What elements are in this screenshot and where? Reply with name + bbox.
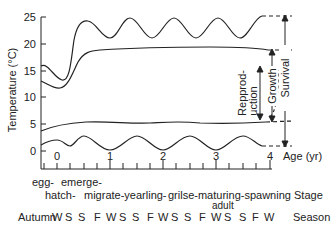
- y-tick-15: 15: [24, 65, 36, 77]
- lower-growth-curve: [41, 122, 266, 131]
- y-tick-10: 10: [24, 91, 36, 103]
- stage-migrate-yearling: migrate-yearling-: [84, 189, 167, 201]
- survival-arrow-up-icon: [282, 15, 288, 21]
- curves: [41, 16, 292, 150]
- reproduction-arrow-up-icon: [257, 66, 263, 72]
- season-letter: S: [119, 211, 126, 223]
- season-letter: S: [239, 211, 246, 223]
- season-letter: F: [252, 211, 259, 223]
- x-tick-4: 4: [267, 150, 273, 162]
- season-letter: S: [184, 211, 191, 223]
- y-tick-25: 25: [24, 11, 36, 23]
- season-letter: W: [211, 211, 221, 223]
- growth-label: Growth: [266, 68, 278, 103]
- season-letter: S: [78, 211, 85, 223]
- temperature-requirements-figure: 25 20 15 10 5 0 Temperature (°C): [0, 0, 334, 225]
- x-axis-label: Age (yr): [283, 150, 322, 162]
- season-letter: S: [171, 211, 178, 223]
- stage-emerge: emerge-: [61, 176, 102, 188]
- x-tick-2: 2: [160, 150, 166, 162]
- x-tick-0: 0: [54, 150, 60, 162]
- season-letter: F: [147, 211, 154, 223]
- x-tick-labels: 0 1 2 3 4: [54, 150, 273, 162]
- season-letter: S: [132, 211, 139, 223]
- stage-egg: egg-: [32, 176, 54, 188]
- upper-growth-curve: [41, 47, 268, 88]
- x-tick-3: 3: [213, 150, 219, 162]
- season-letter: S: [224, 211, 231, 223]
- season-letter: W: [106, 211, 116, 223]
- reproduction-label-line2: uction: [247, 86, 259, 115]
- y-axis-label: Temperature (°C): [6, 48, 18, 132]
- season-letter: W: [158, 211, 168, 223]
- y-tick-labels: 25 20 15 10 5 0: [24, 11, 36, 157]
- season-letter: S: [65, 211, 72, 223]
- survival-arrow-down-icon: [282, 141, 288, 147]
- survival-label: Survival: [279, 58, 291, 97]
- stage-row-label: Stage: [294, 189, 323, 201]
- season-autumn: Autumn: [18, 211, 56, 223]
- season-letter: F: [199, 211, 206, 223]
- season-letter: F: [94, 211, 101, 223]
- y-tick-5: 5: [30, 118, 36, 130]
- x-tick-1: 1: [107, 150, 113, 162]
- lower-survival-curve: [41, 136, 262, 150]
- stage-hatch: hatch-: [45, 189, 76, 201]
- y-tick-0: 0: [30, 145, 36, 157]
- x-ticks: [44, 160, 270, 169]
- season-letter: W: [52, 211, 62, 223]
- season-letter: W: [264, 211, 274, 223]
- lower-growth-dashed: [266, 121, 292, 122]
- y-tick-20: 20: [24, 38, 36, 50]
- season-row-label: Season: [293, 211, 330, 223]
